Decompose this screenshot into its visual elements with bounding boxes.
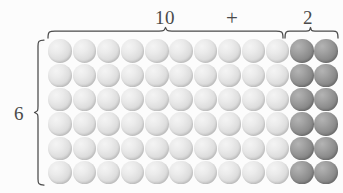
sphere-counter (314, 39, 338, 63)
sphere-counter (121, 88, 145, 112)
counter-grid (48, 39, 338, 185)
sphere-counter (314, 112, 338, 136)
sphere-counter (169, 136, 193, 160)
sphere-counter (193, 39, 217, 63)
sphere-counter (290, 39, 314, 63)
sphere-counter (217, 160, 241, 184)
sphere-counter (169, 112, 193, 136)
sphere-counter (96, 160, 120, 184)
sphere-counter (72, 112, 96, 136)
sphere-counter (145, 88, 169, 112)
sphere-counter (48, 112, 72, 136)
diagram-canvas: 10 + 2 6 (0, 0, 343, 193)
sphere-counter (217, 39, 241, 63)
sphere-counter (242, 39, 266, 63)
sphere-counter (48, 136, 72, 160)
top-brace-ten (48, 28, 283, 39)
sphere-counter (242, 112, 266, 136)
sphere-counter (242, 88, 266, 112)
sphere-counter (96, 63, 120, 87)
sphere-counter (290, 88, 314, 112)
sphere-counter (145, 39, 169, 63)
sphere-counter (314, 160, 338, 184)
sphere-counter (48, 63, 72, 87)
sphere-counter (72, 39, 96, 63)
sphere-counter (145, 136, 169, 160)
sphere-counter (96, 39, 120, 63)
sphere-counter (217, 136, 241, 160)
sphere-counter (72, 160, 96, 184)
sphere-counter (193, 88, 217, 112)
sphere-counter (242, 160, 266, 184)
sphere-counter (169, 88, 193, 112)
top-brace-two (285, 28, 338, 39)
sphere-counter (48, 39, 72, 63)
top-label-two: 2 (303, 8, 313, 27)
sphere-counter (217, 112, 241, 136)
sphere-counter (193, 112, 217, 136)
sphere-counter (96, 88, 120, 112)
sphere-counter (266, 160, 290, 184)
sphere-counter (266, 136, 290, 160)
sphere-counter (290, 112, 314, 136)
sphere-counter (217, 88, 241, 112)
sphere-counter (96, 112, 120, 136)
sphere-counter (193, 136, 217, 160)
sphere-counter (290, 136, 314, 160)
sphere-counter (242, 63, 266, 87)
sphere-counter (72, 136, 96, 160)
sphere-counter (193, 160, 217, 184)
sphere-counter (266, 88, 290, 112)
sphere-counter (121, 136, 145, 160)
sphere-counter (314, 88, 338, 112)
sphere-counter (72, 63, 96, 87)
sphere-counter (121, 39, 145, 63)
left-brace-six (35, 40, 45, 185)
sphere-counter (72, 88, 96, 112)
top-label-ten: 10 (155, 8, 175, 27)
sphere-counter (314, 136, 338, 160)
sphere-counter (193, 63, 217, 87)
left-label-six: 6 (14, 104, 24, 123)
sphere-counter (314, 63, 338, 87)
sphere-counter (121, 63, 145, 87)
sphere-counter (145, 160, 169, 184)
plus-operator-label: + (226, 8, 238, 29)
sphere-counter (145, 63, 169, 87)
sphere-counter (169, 63, 193, 87)
sphere-counter (121, 112, 145, 136)
sphere-counter (169, 160, 193, 184)
sphere-counter (96, 136, 120, 160)
sphere-counter (169, 39, 193, 63)
sphere-counter (217, 63, 241, 87)
sphere-counter (266, 39, 290, 63)
sphere-counter (145, 112, 169, 136)
sphere-counter (290, 63, 314, 87)
sphere-counter (48, 160, 72, 184)
sphere-counter (290, 160, 314, 184)
sphere-counter (121, 160, 145, 184)
sphere-counter (266, 112, 290, 136)
sphere-counter (266, 63, 290, 87)
sphere-counter (242, 136, 266, 160)
sphere-counter (48, 88, 72, 112)
